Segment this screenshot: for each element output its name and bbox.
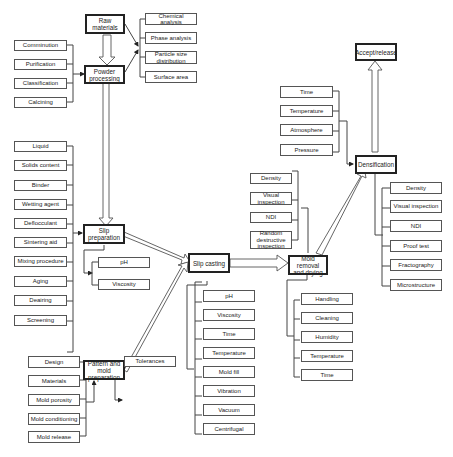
powder-input-classification: Classification <box>14 78 67 89</box>
removal-param-cleaning: Cleaning <box>301 312 353 324</box>
raw-check-particle-size: Particle size distribution <box>145 51 197 64</box>
item-label: Proof test <box>403 243 429 250</box>
item-label: Visual inspection <box>252 192 290 205</box>
mold-input-mold-porosity: Mold porosity <box>28 394 80 406</box>
densification-check-visual-inspection: Visual inspection <box>390 200 442 213</box>
densification-param-temperature: Temperature <box>280 105 333 117</box>
item-label: Comminution <box>23 42 58 49</box>
step-slip-casting: Slip casting <box>188 253 230 273</box>
item-label: Deflocculant <box>24 220 57 227</box>
item-label: Phase analysis <box>151 35 191 42</box>
item-label: Fractography <box>398 262 433 269</box>
removal-param-time: Time <box>301 369 353 381</box>
item-label: NDI <box>266 214 276 221</box>
densification-param-pressure: Pressure <box>280 144 333 156</box>
item-label: Cleaning <box>315 315 339 322</box>
step-mold-removal-drying: Mold removal and drying <box>288 255 328 275</box>
item-label: Density <box>406 185 426 192</box>
powder-input-purification: Purification <box>14 59 67 70</box>
item-label: Density <box>261 175 281 182</box>
removal-check-density: Density <box>250 173 292 184</box>
removal-check-random-destructive: Random destructive inspection <box>250 231 292 249</box>
slip-input-liquid: Liquid <box>14 141 67 152</box>
densification-check-fractography: Fractography <box>390 259 442 271</box>
step-label: Raw materials <box>88 17 122 31</box>
densification-param-time: Time <box>280 86 333 98</box>
slip-output-viscosity: Viscosity <box>98 279 150 290</box>
item-label: Screening <box>27 317 54 324</box>
slip-output-ph: pH <box>98 257 150 268</box>
item-label: Materials <box>42 378 66 385</box>
casting-param-temperature: Temperature <box>203 347 255 359</box>
item-label: Mold release <box>37 434 71 441</box>
item-label: Viscosity <box>112 281 136 288</box>
item-label: Liquid <box>32 143 48 150</box>
item-label: Random destructive inspection <box>252 230 290 250</box>
step-slip-preparation: Slip preparation <box>83 224 125 244</box>
casting-param-mold-fill: Mold fill <box>203 366 255 378</box>
item-label: pH <box>120 259 128 266</box>
removal-check-visual-inspection: Visual inspection <box>250 192 292 205</box>
mold-output-tolerances: Tolerances <box>124 356 176 367</box>
item-label: pH <box>225 293 233 300</box>
item-label: Sintering aid <box>24 239 57 246</box>
powder-input-calcining: Calcining <box>14 97 67 108</box>
item-label: Handling <box>315 296 339 303</box>
item-label: Temperature <box>212 350 246 357</box>
step-densification: Densification <box>355 155 397 174</box>
step-label: Slip casting <box>193 260 225 267</box>
densification-check-proof-test: Proof test <box>390 240 442 252</box>
slip-input-mixing-procedure: Mixing procedure <box>14 256 67 267</box>
step-accept-release: Accept/release <box>355 43 397 61</box>
step-label: Slip preparation <box>86 227 122 241</box>
item-label: Mold porosity <box>36 397 72 404</box>
step-powder-processing: Powder processing <box>84 65 125 84</box>
casting-param-vacuum: Vacuum <box>203 404 255 416</box>
item-label: Temperature <box>310 353 344 360</box>
slip-input-binder: Binder <box>14 180 67 191</box>
item-label: Calcining <box>28 99 53 106</box>
densification-check-density: Density <box>390 182 442 194</box>
item-label: Binder <box>32 182 49 189</box>
item-label: Temperature <box>290 108 324 115</box>
item-label: Mold conditioning <box>31 416 78 423</box>
mold-input-mold-release: Mold release <box>28 431 80 443</box>
item-label: Time <box>222 331 235 338</box>
casting-param-ph: pH <box>203 290 255 302</box>
item-label: Chemical analysis <box>147 13 195 26</box>
item-label: Design <box>45 359 64 366</box>
step-label: Accept/release <box>355 49 397 56</box>
item-label: Aging <box>33 278 48 285</box>
powder-input-comminution: Comminution <box>14 40 67 51</box>
item-label: Mixing procedure <box>17 258 63 265</box>
step-label: Powder processing <box>87 68 122 82</box>
removal-check-ndi: NDI <box>250 212 292 223</box>
removal-param-handling: Handling <box>301 293 353 305</box>
raw-check-phase-analysis: Phase analysis <box>145 32 197 44</box>
casting-param-viscosity: Viscosity <box>203 309 255 321</box>
mold-input-materials: Materials <box>28 375 80 387</box>
item-label: Solids content <box>22 162 60 169</box>
casting-param-centrifugal: Centrifugal <box>203 423 255 435</box>
item-label: Vacuum <box>218 407 240 414</box>
item-label: Purification <box>26 61 56 68</box>
slip-input-screening: Screening <box>14 315 67 326</box>
item-label: Centrifugal <box>214 426 243 433</box>
step-raw-materials: Raw materials <box>85 14 125 34</box>
item-label: Viscosity <box>217 312 241 319</box>
item-label: Deairing <box>29 297 51 304</box>
item-label: NDI <box>411 223 421 230</box>
removal-param-temperature: Temperature <box>301 350 353 362</box>
densification-check-ndi: NDI <box>390 220 442 232</box>
raw-check-chemical-analysis: Chemical analysis <box>145 13 197 25</box>
item-label: Time <box>300 89 313 96</box>
item-label: Mold fill <box>219 369 239 376</box>
item-label: Microstructure <box>397 282 435 289</box>
slip-input-deairing: Deairing <box>14 295 67 306</box>
item-label: Pressure <box>294 147 318 154</box>
item-label: Humidity <box>315 334 338 341</box>
item-label: Wetting agent <box>22 201 59 208</box>
item-label: Particle size distribution <box>147 51 195 64</box>
item-label: Time <box>320 372 333 379</box>
item-label: Atmosphere <box>290 127 322 134</box>
